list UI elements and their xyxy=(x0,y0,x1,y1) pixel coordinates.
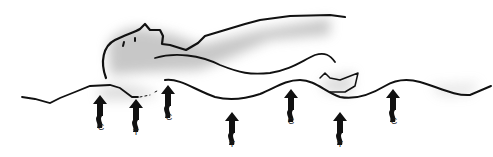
diagram-canvas xyxy=(0,0,493,157)
marker-label-crest: C xyxy=(285,116,297,126)
marker-label-crest: C xyxy=(163,112,175,122)
marker-label-crest: C xyxy=(95,122,107,132)
eye-icon xyxy=(123,42,124,46)
marker-label-crest: C xyxy=(388,116,400,126)
marker-label-trough: T xyxy=(334,139,346,149)
marker-label-trough: T xyxy=(130,127,142,137)
marker-label-trough: T xyxy=(226,139,238,149)
wave-surface xyxy=(22,80,491,103)
